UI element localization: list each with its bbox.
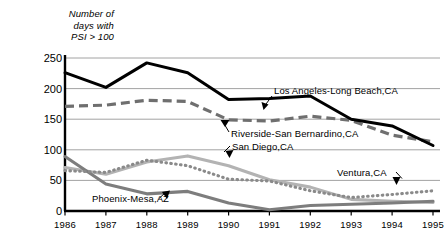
gridlines — [65, 58, 440, 180]
plot-area — [0, 0, 447, 243]
annotation-los-angeles-long-beach: Los Angeles-Long Beach,CA — [274, 85, 398, 96]
annotation-ventura: Ventura,CA — [337, 167, 387, 178]
series-line-ventura — [65, 160, 433, 197]
line-chart: Number of days with PSI > 100 250 200 15… — [0, 0, 447, 243]
annotation-phoenix-mesa: Phoenix-Mesa,AZ — [92, 193, 169, 204]
annotation-riverside-san-bernardino: Riverside-San Bernardino,CA — [231, 128, 358, 139]
annotation-san-diego: San Diego,CA — [232, 141, 293, 152]
